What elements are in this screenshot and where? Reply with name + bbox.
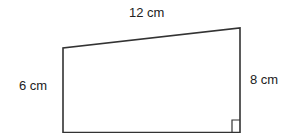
left-side-label: 6 cm xyxy=(19,78,47,93)
top-side-label: 12 cm xyxy=(129,5,164,20)
trapezium-outline xyxy=(63,28,240,133)
right-angle-marker xyxy=(232,120,240,133)
right-side-label: 8 cm xyxy=(250,72,278,87)
